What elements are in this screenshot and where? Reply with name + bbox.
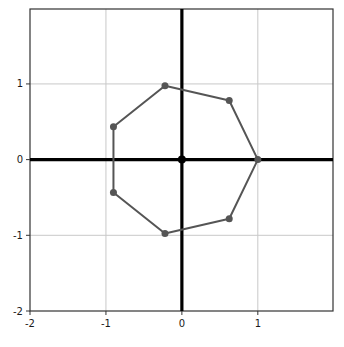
x-tick-label: -2	[25, 318, 35, 329]
data-point-P4	[110, 189, 117, 196]
x-tick-label: -1	[101, 318, 111, 329]
data-point-P5	[161, 230, 168, 237]
origin-marker	[178, 156, 186, 164]
data-point-P1	[226, 97, 233, 104]
data-point-P0	[254, 156, 261, 163]
x-tick-label: 1	[255, 318, 261, 329]
figure-background	[0, 0, 344, 347]
y-tick-label: -1	[13, 230, 23, 241]
y-tick-label: 0	[17, 154, 23, 165]
data-point-P3	[110, 123, 117, 130]
y-tick-label: -2	[13, 306, 23, 317]
data-point-P6	[226, 215, 233, 222]
roots-of-unity-chart: -2-101-2-101	[0, 0, 344, 347]
x-tick-label: 0	[179, 318, 185, 329]
y-tick-label: 1	[17, 78, 23, 89]
data-point-P2	[161, 82, 168, 89]
figure-container: -2-101-2-101	[0, 0, 344, 347]
